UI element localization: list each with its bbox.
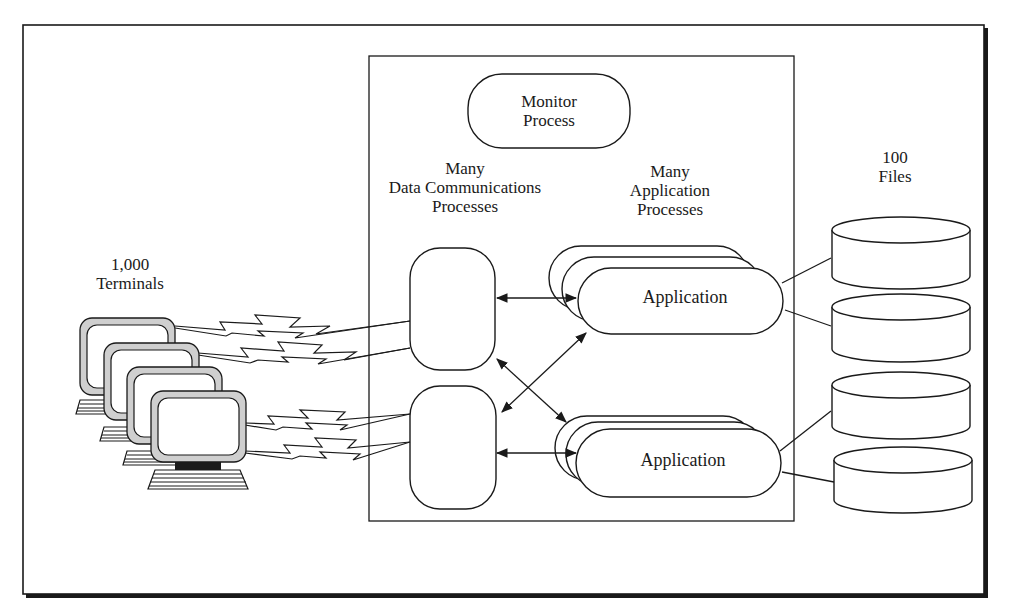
data-comm-processes-label: Many Data Communications Processes <box>370 159 560 216</box>
application-label-1: Application <box>600 288 770 307</box>
data-comm-process-2 <box>410 386 496 509</box>
monitor-process-label: Monitor Process <box>468 92 630 130</box>
application-label-2: Application <box>598 451 768 470</box>
disk-cylinder-icon <box>832 217 970 289</box>
data-comm-process-1 <box>410 248 495 370</box>
application-processes-label: Many Application Processes <box>610 162 730 219</box>
computer-terminal-icon <box>148 391 248 489</box>
diagram-canvas <box>0 0 1009 606</box>
disk-cylinder-icon <box>834 447 972 513</box>
disk-cylinder-icon <box>832 294 970 362</box>
disk-cylinder-icon <box>832 372 970 439</box>
terminals-label: 1,000 Terminals <box>80 255 180 293</box>
files-label: 100 Files <box>860 148 930 186</box>
